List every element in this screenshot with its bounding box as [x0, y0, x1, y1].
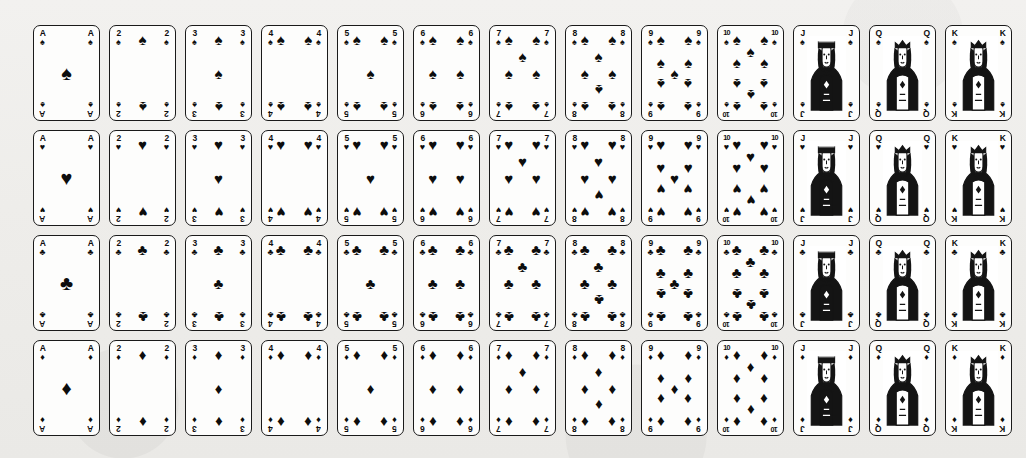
pip-clubs-icon: ♣	[504, 242, 514, 257]
corner-suit-clubs-icon: ♣	[1000, 311, 1006, 319]
card-a-of-clubs[interactable]: A♣A♣A♣A♣♣	[33, 235, 100, 331]
card-q-of-spades[interactable]: Q♠Q♠Q♠Q♠	[869, 25, 936, 121]
card-9-of-clubs[interactable]: 9♣9♣9♣9♣♣♣♣♣♣♣♣♣♣	[641, 235, 708, 331]
card-5-of-spades[interactable]: 5♠5♠5♠5♠♠♠♠♠♠	[337, 25, 404, 121]
pip-hearts-icon: ♥	[214, 204, 223, 219]
card-k-of-clubs[interactable]: K♣K♣K♣K♣	[945, 235, 1012, 331]
card-3-of-hearts[interactable]: 3♥3♥3♥3♥♥♥♥	[185, 130, 252, 226]
corner-suit-spades-icon: ♠	[392, 38, 397, 46]
card-10-of-clubs[interactable]: 10♣10♣10♣10♣♣♣♣♣♣♣♣♣♣♣	[717, 235, 784, 331]
corner-suit-hearts-icon: ♥	[1000, 143, 1005, 151]
pip-clubs-icon: ♣	[531, 276, 541, 291]
pip-hearts-icon: ♥	[684, 159, 693, 174]
card-4-of-hearts[interactable]: 4♥4♥4♥4♥♥♥♥♥	[261, 130, 328, 226]
corner-suit-diamonds-icon: ♦	[316, 416, 321, 424]
card-4-of-diamonds[interactable]: 4♦4♦4♦4♦♦♦♦♦	[261, 340, 328, 436]
card-6-of-spades[interactable]: 6♠6♠6♠6♠♠♠♠♠♠♠	[413, 25, 480, 121]
pip-diamonds-icon: ♦	[657, 392, 665, 407]
corner-suit-hearts-icon: ♥	[240, 206, 245, 214]
card-3-of-spades[interactable]: 3♠3♠3♠3♠♠♠♠	[185, 25, 252, 121]
card-j-of-spades[interactable]: J♠J♠J♠J♠	[793, 25, 860, 121]
card-a-of-diamonds[interactable]: A♦A♦A♦A♦♦	[33, 340, 100, 436]
pip-clubs-icon: ♣	[759, 309, 769, 324]
card-5-of-hearts[interactable]: 5♥5♥5♥5♥♥♥♥♥♥	[337, 130, 404, 226]
card-8-of-clubs[interactable]: 8♣8♣8♣8♣♣♣♣♣♣♣♣♣	[565, 235, 632, 331]
card-3-of-diamonds[interactable]: 3♦3♦3♦3♦♦♦♦	[185, 340, 252, 436]
card-10-of-hearts[interactable]: 10♥10♥10♥10♥♥♥♥♥♥♥♥♥♥♥	[717, 130, 784, 226]
card-10-of-diamonds[interactable]: 10♦10♦10♦10♦♦♦♦♦♦♦♦♦♦♦	[717, 340, 784, 436]
pip-diamonds-icon: ♦	[429, 347, 437, 362]
card-2-of-clubs[interactable]: 2♣2♣2♣2♣♣♣	[109, 235, 176, 331]
card-9-of-spades[interactable]: 9♠9♠9♠9♠♠♠♠♠♠♠♠♠♠	[641, 25, 708, 121]
card-2-of-spades[interactable]: 2♠2♠2♠2♠♠♠	[109, 25, 176, 121]
card-j-of-diamonds[interactable]: J♦J♦J♦J♦	[793, 340, 860, 436]
card-k-of-diamonds[interactable]: K♦K♦K♦K♦	[945, 340, 1012, 436]
pip-field: ♦♦♦♦♦♦	[425, 348, 468, 428]
card-a-of-spades[interactable]: A♠A♠A♠A♠♠	[33, 25, 100, 121]
card-7-of-spades[interactable]: 7♠7♠7♠7♠♠♠♠♠♠♠♠	[489, 25, 556, 121]
card-j-of-clubs[interactable]: J♣J♣J♣J♣	[793, 235, 860, 331]
card-6-of-hearts[interactable]: 6♥6♥6♥6♥♥♥♥♥♥♥	[413, 130, 480, 226]
card-7-of-diamonds[interactable]: 7♦7♦7♦7♦♦♦♦♦♦♦♦	[489, 340, 556, 436]
corner-suit-clubs-icon: ♣	[848, 248, 854, 256]
card-8-of-hearts[interactable]: 8♥8♥8♥8♥♥♥♥♥♥♥♥♥	[565, 130, 632, 226]
pip-clubs-icon: ♣	[366, 276, 376, 291]
card-8-of-spades[interactable]: 8♠8♠8♠8♠♠♠♠♠♠♠♠♠	[565, 25, 632, 121]
card-q-of-diamonds[interactable]: Q♦Q♦Q♦Q♦	[869, 340, 936, 436]
pip-diamonds-icon: ♦	[367, 381, 375, 396]
card-9-of-hearts[interactable]: 9♥9♥9♥9♥♥♥♥♥♥♥♥♥♥	[641, 130, 708, 226]
pip-hearts-icon: ♥	[760, 137, 769, 152]
card-9-of-diamonds[interactable]: 9♦9♦9♦9♦♦♦♦♦♦♦♦♦♦	[641, 340, 708, 436]
corner-suit-clubs-icon: ♣	[468, 248, 474, 256]
pip-hearts-icon: ♥	[214, 171, 223, 186]
pip-diamonds-icon: ♦	[747, 403, 755, 418]
pip-clubs-icon: ♣	[670, 276, 680, 291]
corner-suit-clubs-icon: ♣	[88, 248, 94, 256]
corner-suit-clubs-icon: ♣	[848, 311, 854, 319]
pip-diamonds-icon: ♦	[608, 381, 616, 396]
card-10-of-spades[interactable]: 10♠10♠10♠10♠♠♠♠♠♠♠♠♠♠♠	[717, 25, 784, 121]
card-a-of-hearts[interactable]: A♥A♥A♥A♥♥	[33, 130, 100, 226]
card-8-of-diamonds[interactable]: 8♦8♦8♦8♦♦♦♦♦♦♦♦♦	[565, 340, 632, 436]
card-q-of-clubs[interactable]: Q♣Q♣Q♣Q♣	[869, 235, 936, 331]
card-k-of-hearts[interactable]: K♥K♥K♥K♥	[945, 130, 1012, 226]
card-2-of-diamonds[interactable]: 2♦2♦2♦2♦♦♦	[109, 340, 176, 436]
suit-row-diamonds: A♦A♦A♦A♦♦2♦2♦2♦2♦♦♦3♦3♦3♦3♦♦♦♦4♦4♦4♦4♦♦♦…	[33, 340, 1012, 436]
card-q-of-hearts[interactable]: Q♥Q♥Q♥Q♥	[869, 130, 936, 226]
pip-clubs-icon: ♣	[607, 276, 617, 291]
card-6-of-diamonds[interactable]: 6♦6♦6♦6♦♦♦♦♦♦♦	[413, 340, 480, 436]
pip-field: ♥♥♥♥♥♥♥♥♥	[653, 138, 696, 218]
pip-spades-icon: ♠	[760, 99, 768, 114]
card-j-of-hearts[interactable]: J♥J♥J♥J♥	[793, 130, 860, 226]
card-7-of-hearts[interactable]: 7♥7♥7♥7♥♥♥♥♥♥♥♥	[489, 130, 556, 226]
pip-clubs-icon: ♣	[428, 276, 438, 291]
card-k-of-spades[interactable]: K♠K♠K♠K♠	[945, 25, 1012, 121]
card-7-of-clubs[interactable]: 7♣7♣7♣7♣♣♣♣♣♣♣♣	[489, 235, 556, 331]
pip-hearts-icon: ♥	[746, 148, 755, 163]
card-5-of-clubs[interactable]: 5♣5♣5♣5♣♣♣♣♣♣	[337, 235, 404, 331]
pip-hearts-icon: ♥	[456, 204, 465, 219]
corner-suit-clubs-icon: ♣	[620, 248, 626, 256]
corner-suit-clubs-icon: ♣	[696, 248, 702, 256]
pip-diamonds-icon: ♦	[581, 381, 589, 396]
pip-diamonds-icon: ♦	[671, 381, 679, 396]
pip-spades-icon: ♠	[456, 32, 464, 47]
card-3-of-clubs[interactable]: 3♣3♣3♣3♣♣♣♣	[185, 235, 252, 331]
card-6-of-clubs[interactable]: 6♣6♣6♣6♣♣♣♣♣♣♣	[413, 235, 480, 331]
pip-clubs-icon: ♣	[759, 264, 769, 279]
pip-hearts-icon: ♥	[428, 171, 437, 186]
pip-spades-icon: ♠	[671, 66, 679, 81]
pip-field: ♦♦♦♦♦♦♦♦♦	[653, 348, 696, 428]
pip-spades-icon: ♠	[304, 99, 312, 114]
card-5-of-diamonds[interactable]: 5♦5♦5♦5♦♦♦♦♦♦	[337, 340, 404, 436]
corner-suit-hearts-icon: ♥	[316, 143, 321, 151]
pip-hearts-icon: ♥	[504, 171, 513, 186]
corner-suit-clubs-icon: ♣	[392, 248, 398, 256]
corner-suit-diamonds-icon: ♦	[468, 353, 473, 361]
pip-clubs-icon: ♣	[759, 242, 769, 257]
card-2-of-hearts[interactable]: 2♥2♥2♥2♥♥♥	[109, 130, 176, 226]
corner-suit-clubs-icon: ♣	[772, 248, 778, 256]
card-4-of-spades[interactable]: 4♠4♠4♠4♠♠♠♠♠	[261, 25, 328, 121]
card-4-of-clubs[interactable]: 4♣4♣4♣4♣♣♣♣♣	[261, 235, 328, 331]
pip-field: ♣♣♣♣	[273, 243, 316, 323]
